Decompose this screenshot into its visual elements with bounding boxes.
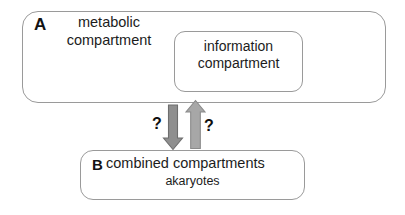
diagram-canvas: A metabolic compartment information comp… <box>0 0 405 215</box>
arrow-down-icon <box>164 105 183 150</box>
arrow-up-icon <box>186 101 205 149</box>
akaryotes-label: akaryotes <box>80 174 305 189</box>
panel-letter-b: B <box>92 157 103 172</box>
question-mark-up-arrow: ? <box>204 118 214 134</box>
question-mark-down-arrow: ? <box>152 116 162 132</box>
combined-compartments-label: combined compartments <box>106 155 296 173</box>
